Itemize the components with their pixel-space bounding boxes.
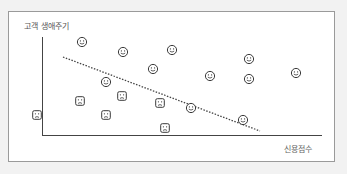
- sad-face-icon: [118, 92, 127, 101]
- happy-face-icon: [205, 71, 214, 80]
- trend-line: [63, 57, 260, 131]
- happy-face-icon: [186, 103, 195, 112]
- happy-face-icon: [148, 64, 157, 73]
- scatter-plot: [0, 0, 347, 174]
- happy-face-icon: [77, 37, 86, 46]
- sad-face-icon: [76, 97, 85, 106]
- happy-face-icon: [167, 45, 176, 54]
- sad-face-icon: [156, 99, 165, 108]
- happy-face-icon: [291, 68, 300, 77]
- happy-face-icon: [238, 115, 247, 124]
- happy-face-icon: [101, 77, 110, 86]
- happy-face-icon: [244, 54, 253, 63]
- sad-face-icon: [33, 111, 42, 120]
- sad-face-icon: [161, 124, 170, 133]
- happy-face-icon: [118, 47, 127, 56]
- sad-face-icon: [102, 111, 111, 120]
- happy-face-icon: [244, 74, 253, 83]
